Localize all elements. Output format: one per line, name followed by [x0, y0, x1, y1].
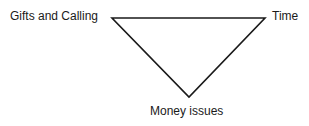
label-time: Time: [272, 9, 298, 23]
label-money-issues: Money issues: [150, 104, 223, 118]
triangle-shape: [112, 18, 265, 97]
label-gifts-and-calling: Gifts and Calling: [10, 9, 98, 23]
